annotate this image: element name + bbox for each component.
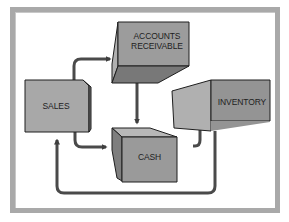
accounts-receivable-label-line1: ACCOUNTS <box>126 31 188 41</box>
arrow-sales-to-cash <box>75 132 106 147</box>
cash-label: CASH <box>122 152 177 162</box>
sales-label: SALES <box>25 101 87 111</box>
accounts-receivable-label: ACCOUNTS RECEIVABLE <box>126 31 188 51</box>
inventory-label: INVENTORY <box>212 97 272 107</box>
arrow-sales-to-accounts-receivable <box>74 59 110 80</box>
accounts-receivable-label-line2: RECEIVABLE <box>126 41 188 51</box>
